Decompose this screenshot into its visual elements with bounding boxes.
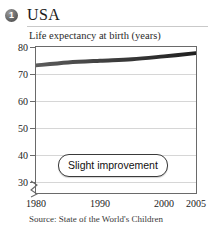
chart-subtitle: Life expectancy at birth (years) — [29, 30, 161, 41]
y-tick-label: 30 — [18, 177, 28, 188]
y-tick-label: 40 — [18, 150, 28, 161]
x-axis-labels: 1980 1990 2000 2005 — [0, 198, 213, 214]
axis-break-icon — [28, 180, 42, 198]
x-tick-label: 1980 — [26, 198, 46, 209]
chart-card: 1 USA Life expectancy at birth (years) 8… — [0, 0, 213, 235]
x-tick-label: 1990 — [90, 198, 110, 209]
y-axis-labels: 80 70 60 50 40 30 — [0, 44, 33, 196]
header-divider — [27, 26, 208, 27]
source-note: Source: State of the World's Children — [29, 214, 163, 224]
annotation-callout: Slight improvement — [58, 154, 168, 177]
series-life-expectancy — [36, 53, 196, 65]
y-tick-label: 80 — [18, 42, 28, 53]
rank-badge: 1 — [5, 9, 18, 22]
x-tick-label: 2005 — [186, 198, 206, 209]
y-tick-label: 50 — [18, 123, 28, 134]
card-header: 1 USA — [5, 5, 208, 25]
line-chart: 80 70 60 50 40 30 — [0, 44, 213, 204]
page-title: USA — [27, 6, 60, 24]
y-tick-label: 70 — [18, 69, 28, 80]
y-tick-label: 60 — [18, 96, 28, 107]
x-tick-label: 2000 — [154, 198, 174, 209]
